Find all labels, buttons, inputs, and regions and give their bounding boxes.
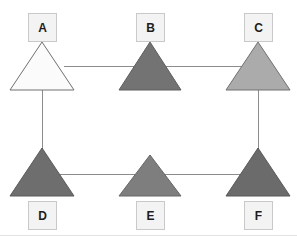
node-label-a[interactable]: A (28, 13, 57, 42)
node-label-text-b: B (146, 22, 155, 34)
node-label-text-d: D (38, 210, 47, 222)
node-triangle-d[interactable] (10, 148, 74, 196)
node-label-text-f: F (255, 210, 262, 222)
node-label-f[interactable]: F (244, 201, 273, 230)
node-label-text-a: A (38, 22, 47, 34)
node-label-text-c: C (254, 22, 263, 34)
node-label-text-e: E (146, 210, 154, 222)
nodes-layer (10, 42, 290, 196)
node-triangle-f[interactable] (226, 148, 290, 196)
node-label-d[interactable]: D (28, 201, 57, 230)
node-triangle-e[interactable] (119, 155, 181, 196)
diagram-canvas: ABCDEF (0, 0, 297, 236)
node-label-c[interactable]: C (244, 13, 273, 42)
node-label-e[interactable]: E (136, 201, 165, 230)
node-label-b[interactable]: B (136, 13, 165, 42)
